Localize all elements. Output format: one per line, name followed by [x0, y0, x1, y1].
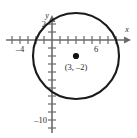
y-axis — [48, 15, 56, 133]
x-tick-label-neg4: –4 — [15, 44, 25, 54]
coordinate-plane-svg: x y –4 6 2 –10 (3, –2) — [0, 0, 137, 138]
x-axis — [6, 36, 131, 44]
center-point-label: (3, –2) — [65, 62, 88, 72]
x-axis-label: x — [124, 25, 129, 34]
center-point-marker — [73, 53, 79, 59]
x-tick-label-6: 6 — [94, 44, 98, 54]
graph-figure: x y –4 6 2 –10 (3, –2) — [0, 0, 137, 138]
y-tick-label-2: 2 — [42, 19, 46, 29]
x-axis-arrow — [124, 37, 131, 44]
y-tick-label-neg10: –10 — [33, 115, 47, 125]
